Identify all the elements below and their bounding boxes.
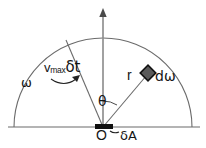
label-origin: O xyxy=(96,128,107,142)
label-vmax-delta-t: vmaxδt xyxy=(44,60,80,75)
label-theta: θ xyxy=(98,94,107,108)
label-vmax-subscript: max xyxy=(50,65,65,75)
label-delta-t: δt xyxy=(65,58,80,76)
label-radius: r xyxy=(127,68,132,82)
figure-canvas: ω vmaxδt θ r dω O δA xyxy=(0,0,206,148)
delta-a-leader xyxy=(110,131,119,133)
d-omega-marker xyxy=(140,65,156,81)
vmax-delta-t-ray xyxy=(66,40,103,127)
label-delta-a: δA xyxy=(120,129,137,142)
label-d-omega: dω xyxy=(155,69,176,83)
vertical-axis-arrowhead xyxy=(99,8,106,17)
label-omega: ω xyxy=(21,76,32,89)
vmax-leader-arrow xyxy=(51,79,76,84)
